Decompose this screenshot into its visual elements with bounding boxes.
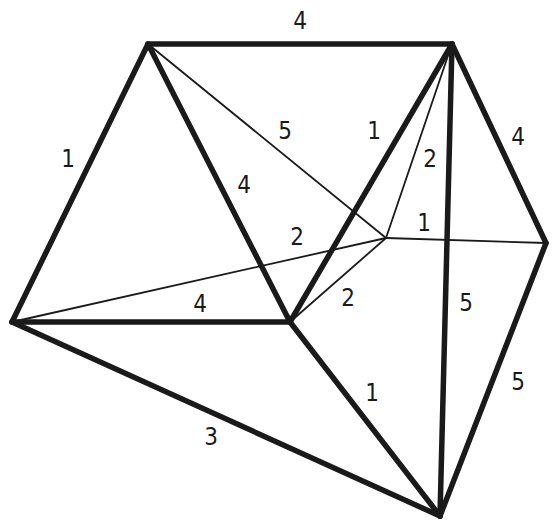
- edge-C-G: [12, 322, 440, 516]
- edge-B-F: [452, 44, 546, 243]
- edge-weight-label: 1: [365, 379, 379, 407]
- edge-A-D: [148, 44, 290, 322]
- edge-weight-label: 1: [367, 117, 381, 145]
- edge-weight-label: 1: [417, 209, 431, 237]
- edge-D-E: [290, 238, 386, 322]
- edge-weight-label: 1: [61, 145, 75, 173]
- edge-weight-label: 3: [204, 423, 218, 451]
- edge-B-D: [290, 44, 452, 322]
- edge-A-E: [148, 44, 386, 238]
- edge-weight-label: 5: [511, 368, 525, 396]
- edges-layer: [12, 44, 546, 516]
- edge-weight-label: 4: [237, 171, 251, 199]
- edge-weight-label: 2: [290, 223, 304, 251]
- edge-weight-label: 4: [293, 7, 307, 35]
- edge-weight-label: 2: [423, 145, 437, 173]
- weighted-graph: 414512541242315: [0, 0, 555, 524]
- edge-weight-label: 4: [193, 290, 207, 318]
- edge-F-G: [440, 243, 546, 516]
- edge-B-G: [440, 44, 452, 516]
- edge-weight-label: 4: [511, 123, 525, 151]
- edge-D-G: [290, 322, 440, 516]
- edge-weight-label: 5: [459, 289, 473, 317]
- edge-weight-label: 2: [341, 284, 355, 312]
- edge-A-C: [12, 44, 148, 322]
- edge-E-F: [386, 238, 546, 243]
- edge-weight-label: 5: [278, 117, 292, 145]
